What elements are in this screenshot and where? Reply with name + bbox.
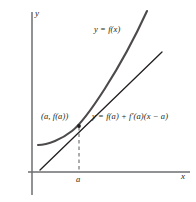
curve-equation-label: y = f(x) — [94, 25, 120, 34]
x-axis-label: x — [181, 172, 185, 181]
tangency-point-marker — [77, 124, 81, 128]
x-tick-label-a: a — [76, 175, 80, 184]
tangency-point-label: (a, f(a)) — [41, 112, 68, 121]
function-curve — [38, 11, 147, 145]
y-axis-label: y — [35, 9, 39, 18]
tangent-equation-label: y = f(a) + f′(a)(x − a) — [92, 112, 168, 121]
tangent-line-figure: y x y = f(x) (a, f(a)) y = f(a) + f′(a)(… — [0, 0, 196, 202]
